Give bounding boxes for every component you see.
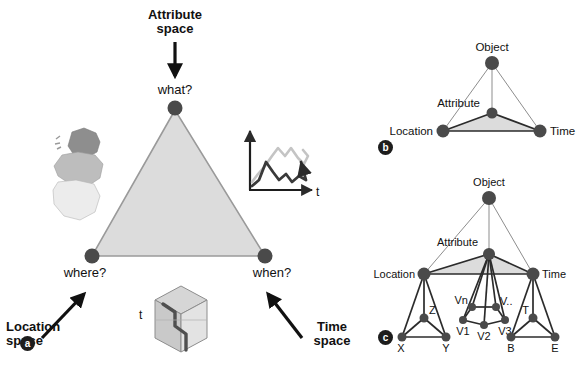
node-label-v1: V1 bbox=[456, 325, 469, 337]
node-label-v2: V2 bbox=[477, 330, 490, 342]
map-region-south bbox=[53, 180, 100, 220]
node-label-x: X bbox=[397, 342, 405, 354]
timeseries-axis-label-t: t bbox=[316, 186, 319, 199]
label-where: where? bbox=[64, 266, 107, 280]
node-b[interactable] bbox=[507, 333, 516, 342]
node-vx[interactable] bbox=[492, 303, 500, 311]
panel-c-graph: ObjectAttributeLocationTimeZXYVnV..V1V2V… bbox=[373, 176, 566, 354]
timeseries-series-dark bbox=[252, 162, 306, 186]
node-label-y: Y bbox=[442, 342, 450, 354]
node-label-e: E bbox=[551, 342, 558, 354]
label-when: when? bbox=[253, 266, 291, 280]
node-label-t: T bbox=[522, 304, 529, 316]
node-v1[interactable] bbox=[459, 316, 467, 324]
node-label-object: Object bbox=[475, 41, 509, 53]
diagram-svg: ObjectAttributeLocationTime ObjectAttrib… bbox=[0, 0, 577, 368]
node-attribute[interactable] bbox=[487, 108, 498, 119]
panel-tag-b: b bbox=[378, 140, 393, 155]
node-label-object: Object bbox=[473, 176, 505, 188]
node-label-time: Time bbox=[542, 268, 566, 280]
node-label-z: Z bbox=[429, 304, 436, 316]
map-island-marks bbox=[55, 136, 61, 149]
time-space-callout-label: Timespace bbox=[314, 320, 351, 348]
figure-canvas: ObjectAttributeLocationTime ObjectAttrib… bbox=[0, 0, 577, 368]
node-z[interactable] bbox=[420, 314, 429, 323]
cube-axis-label-t: t bbox=[139, 309, 142, 322]
node-label-attribute: Attribute bbox=[437, 97, 480, 109]
attribute-space-callout-label: Attributespace bbox=[148, 8, 202, 36]
timeseries-thumbnail bbox=[249, 131, 312, 190]
time-space-arrow bbox=[268, 294, 302, 338]
node-y[interactable] bbox=[442, 333, 451, 342]
node-label-location: Location bbox=[390, 125, 433, 137]
node-label-vx: V.. bbox=[500, 295, 512, 307]
vertex-node-what[interactable] bbox=[168, 101, 183, 116]
vertex-node-where[interactable] bbox=[85, 249, 100, 264]
panel-a-triangle bbox=[85, 101, 273, 264]
node-v2[interactable] bbox=[480, 321, 488, 329]
vertex-node-when[interactable] bbox=[258, 249, 273, 264]
attribute-location-time-triangle bbox=[92, 110, 265, 256]
map-thumbnail bbox=[53, 128, 103, 220]
space-time-cube bbox=[155, 286, 207, 352]
panel-tag-c: c bbox=[378, 330, 393, 345]
node-object[interactable] bbox=[485, 56, 499, 70]
node-t[interactable] bbox=[529, 314, 538, 323]
node-x[interactable] bbox=[398, 333, 407, 342]
node-label-time: Time bbox=[550, 125, 575, 137]
node-v3[interactable] bbox=[501, 316, 509, 324]
node-location[interactable] bbox=[418, 268, 431, 281]
node-label-vn: Vn bbox=[455, 294, 468, 306]
panel-b-graph: ObjectAttributeLocationTime bbox=[390, 41, 576, 138]
node-e[interactable] bbox=[551, 333, 560, 342]
node-time[interactable] bbox=[534, 125, 547, 138]
node-object[interactable] bbox=[482, 191, 496, 205]
node-attribute[interactable] bbox=[483, 248, 495, 260]
node-label-attribute: Attribute bbox=[437, 236, 478, 248]
node-label-b: B bbox=[507, 342, 514, 354]
label-what: what? bbox=[158, 83, 193, 97]
node-time[interactable] bbox=[527, 268, 540, 281]
node-vn[interactable] bbox=[468, 303, 476, 311]
node-location[interactable] bbox=[437, 125, 450, 138]
panel-tag-a: a bbox=[20, 336, 35, 351]
node-label-location: Location bbox=[373, 268, 415, 280]
